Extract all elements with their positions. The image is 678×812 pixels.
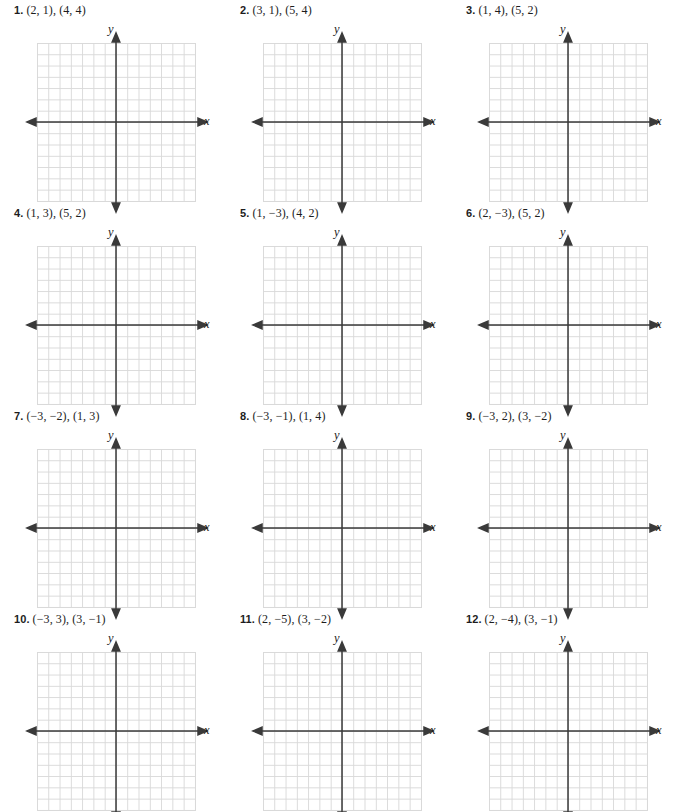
x-axis-arrow-left [479,118,488,126]
x-axis-label: x [204,723,210,738]
exercise-points: (−3, −1), (1, 4) [252,409,325,423]
coordinate-plane: y x [474,631,664,811]
y-axis-label: y [334,225,340,240]
y-axis-label: y [334,631,340,646]
y-axis-label: y [560,225,566,240]
exercise-label: 11.(2, −5), (3, −2) [240,612,331,626]
x-axis-label: x [204,317,210,332]
exercise-label: 9.(−3, 2), (3, −2) [466,409,552,423]
coordinate-plane: y x [22,22,212,202]
exercise-points: (1, 3), (5, 2) [26,206,85,220]
y-axis-label: y [560,22,566,37]
x-axis-label: x [204,520,210,535]
exercise-points: (3, 1), (5, 4) [252,3,311,17]
exercise-points: (2, −4), (3, −1) [485,612,558,626]
exercise-item-12: 12.(2, −4), (3, −1) y x [452,609,678,812]
axes-svg [474,428,664,608]
exercise-number: 5. [240,207,249,219]
axes-svg [22,22,212,202]
coordinate-plane: y x [22,428,212,608]
exercise-label: 4.(1, 3), (5, 2) [14,206,86,220]
exercise-number: 6. [466,207,475,219]
x-axis-label: x [430,520,436,535]
x-axis-arrow-left [253,524,262,532]
exercise-label: 5.(1, −3), (4, 2) [240,206,319,220]
axes-svg [248,631,438,811]
exercise-label: 1.(2, 1), (4, 4) [14,3,86,17]
x-axis-arrow-left [27,321,36,329]
axes-svg [22,631,212,811]
coordinate-plane: y x [474,225,664,405]
exercise-label: 10.(−3, 3), (3, −1) [14,612,106,626]
y-axis-label: y [560,631,566,646]
exercise-points: (1, −3), (4, 2) [252,206,318,220]
exercise-label: 3.(1, 4), (5, 2) [466,3,538,17]
exercise-number: 8. [240,410,249,422]
y-axis-label: y [334,428,340,443]
x-axis-label: x [656,723,662,738]
exercise-item-8: 8.(−3, −1), (1, 4) y x [226,406,452,609]
axes-svg [474,225,664,405]
axes-svg [248,22,438,202]
exercise-points: (−3, −2), (1, 3) [26,409,99,423]
exercise-label: 7.(−3, −2), (1, 3) [14,409,100,423]
coordinate-plane: y x [22,225,212,405]
exercise-points: (−3, 2), (3, −2) [478,409,551,423]
exercise-number: 12. [466,613,482,625]
exercise-grid: 1.(2, 1), (4, 4) y x 2.(3, 1), (5, 4) [0,0,678,812]
exercise-points: (2, 1), (4, 4) [26,3,85,17]
axes-svg [22,225,212,405]
exercise-label: 8.(−3, −1), (1, 4) [240,409,326,423]
coordinate-plane: y x [474,22,664,202]
x-axis-arrow-left [27,727,36,735]
x-axis-label: x [430,317,436,332]
y-axis-label: y [560,428,566,443]
exercise-label: 6.(2, −3), (5, 2) [466,206,545,220]
exercise-item-11: 11.(2, −5), (3, −2) y x [226,609,452,812]
x-axis-arrow-left [479,727,488,735]
x-axis-label: x [430,723,436,738]
exercise-item-10: 10.(−3, 3), (3, −1) y x [0,609,226,812]
coordinate-plane: y x [22,631,212,811]
x-axis-label: x [656,520,662,535]
exercise-item-5: 5.(1, −3), (4, 2) y x [226,203,452,406]
coordinate-plane: y x [248,225,438,405]
exercise-points: (−3, 3), (3, −1) [33,612,106,626]
exercise-points: (2, −3), (5, 2) [478,206,544,220]
exercise-label: 12.(2, −4), (3, −1) [466,612,558,626]
x-axis-arrow-left [253,321,262,329]
exercise-item-7: 7.(−3, −2), (1, 3) y x [0,406,226,609]
x-axis-arrow-left [27,118,36,126]
x-axis-label: x [656,114,662,129]
y-axis-label: y [108,631,114,646]
y-axis-label: y [108,22,114,37]
coordinate-plane: y x [474,428,664,608]
y-axis-label: y [108,225,114,240]
x-axis-arrow-left [479,524,488,532]
coordinate-plane: y x [248,428,438,608]
x-axis-label: x [204,114,210,129]
exercise-item-6: 6.(2, −3), (5, 2) y x [452,203,678,406]
axes-svg [22,428,212,608]
y-axis-label: y [334,22,340,37]
axes-svg [248,225,438,405]
exercise-number: 10. [14,613,30,625]
exercise-points: (1, 4), (5, 2) [478,3,537,17]
exercise-number: 9. [466,410,475,422]
axes-svg [474,631,664,811]
exercise-points: (2, −5), (3, −2) [258,612,331,626]
exercise-item-2: 2.(3, 1), (5, 4) y x [226,0,452,203]
x-axis-label: x [656,317,662,332]
x-axis-arrow-left [253,727,262,735]
exercise-item-3: 3.(1, 4), (5, 2) y x [452,0,678,203]
x-axis-arrow-left [27,524,36,532]
exercise-number: 2. [240,4,249,16]
exercise-number: 3. [466,4,475,16]
axes-svg [474,22,664,202]
exercise-label: 2.(3, 1), (5, 4) [240,3,312,17]
exercise-number: 7. [14,410,23,422]
exercise-item-4: 4.(1, 3), (5, 2) y x [0,203,226,406]
y-axis-label: y [108,428,114,443]
x-axis-arrow-left [479,321,488,329]
